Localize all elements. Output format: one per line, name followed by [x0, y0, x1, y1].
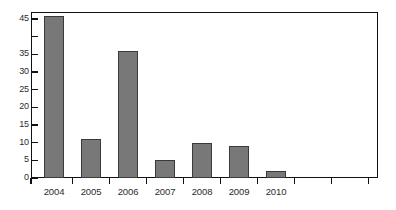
bar-series	[0, 0, 396, 210]
bar	[192, 143, 212, 178]
bar	[118, 51, 138, 178]
bar	[44, 16, 64, 178]
bar-chart-figure: 0510152025303545 20042005200620072008200…	[0, 0, 396, 210]
bar	[155, 160, 175, 178]
bar	[81, 139, 101, 178]
bar	[229, 146, 249, 178]
bar	[266, 171, 286, 178]
